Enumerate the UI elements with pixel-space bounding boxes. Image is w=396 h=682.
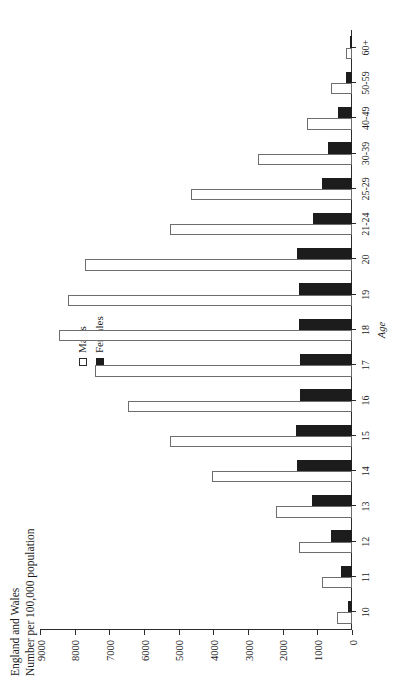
bar-males-13 [276,506,352,517]
category-tick [352,294,356,295]
bar-females-19 [299,283,352,294]
category-tick-label: 18 [360,325,371,335]
category-tick [352,258,356,259]
value-axis-line [40,629,352,630]
category-tick [352,611,356,612]
chart-title-block: England and Wales Number per 100,000 pop… [8,528,37,676]
chart-title-line1: England and Wales [8,528,23,676]
bar-males-10 [337,612,352,623]
bar-females-40-49 [338,107,352,118]
bar-males-16 [128,401,352,412]
category-tick-label: 19 [360,290,371,300]
category-tick-label: 17 [360,360,371,370]
category-tick-label: 25-29 [360,177,371,200]
value-tick-label: 9000 [35,640,46,661]
bar-males-14 [212,471,352,482]
category-tick [352,223,356,224]
category-tick [352,435,356,436]
category-tick-label: 16 [360,396,371,406]
value-tick: 0 [352,630,353,635]
value-tick: 7000 [109,630,110,635]
category-tick [352,153,356,154]
value-tick: 3000 [248,630,249,635]
value-tick-label: 1000 [312,640,323,661]
chart-figure: England and Wales Number per 100,000 pop… [0,0,396,682]
value-tick-label: 6000 [139,640,150,661]
category-tick [352,576,356,577]
value-tick-label: 4000 [208,640,219,661]
value-tick-label: 0 [347,640,358,645]
bar-females-16 [300,389,352,400]
category-tick [352,329,356,330]
value-tick-label: 7000 [104,640,115,661]
bar-males-19 [68,295,352,306]
category-tick-label: 14 [360,466,371,476]
value-tick: 4000 [213,630,214,635]
bar-males-15 [170,436,352,447]
value-tick: 9000 [40,630,41,635]
bar-males-30-39 [258,154,352,165]
category-tick-label: 12 [360,537,371,547]
category-tick-label: 10 [360,607,371,617]
value-tick-label: 2000 [278,640,289,661]
bar-males-40-49 [307,118,352,129]
bar-males-17 [95,365,352,376]
bar-males-60+ [346,48,352,59]
category-tick [352,400,356,401]
category-tick [352,47,356,48]
bar-males-11 [322,577,352,588]
chart-page: { "header": { "line1": "England and Wale… [0,0,396,682]
bar-females-18 [299,319,352,330]
category-tick-label: 40-49 [360,107,371,130]
value-tick-label: 8000 [70,640,81,661]
bar-females-25-29 [322,178,353,189]
plot-area: Age 010002000300040005000600070008000900… [40,30,352,630]
value-tick: 6000 [144,630,145,635]
value-tick: 8000 [75,630,76,635]
category-tick-label: 13 [360,501,371,511]
category-tick [352,505,356,506]
bar-males-12 [299,542,352,553]
value-tick: 1000 [317,630,318,635]
category-tick-label: 11 [360,572,371,582]
category-tick-label: 15 [360,431,371,441]
category-tick-label: 30-39 [360,142,371,165]
category-tick-label: 20 [360,254,371,264]
bar-males-18 [59,330,352,341]
bar-males-20 [85,259,352,270]
category-axis-title: Age [376,322,387,338]
category-tick [352,82,356,83]
bar-females-30-39 [328,142,352,153]
category-tick [352,188,356,189]
value-tick-label: 5000 [174,640,185,661]
bar-females-20 [297,248,352,259]
bar-females-10 [348,601,352,612]
bar-females-17 [300,354,352,365]
bar-females-50-59 [346,72,352,83]
bar-males-25-29 [191,189,352,200]
bar-males-21-24 [170,224,352,235]
bar-females-21-24 [313,213,352,224]
category-tick [352,117,356,118]
value-tick: 2000 [283,630,284,635]
category-tick [352,541,356,542]
category-tick-label: 50-59 [360,71,371,94]
category-tick [352,364,356,365]
category-tick-label: 60+ [360,40,371,56]
rotated-figure-wrapper: England and Wales Number per 100,000 pop… [0,0,396,682]
bar-females-11 [341,566,352,577]
bar-females-14 [297,460,352,471]
bar-females-60+ [350,36,352,47]
category-tick-label: 21-24 [360,212,371,235]
bar-females-12 [331,530,352,541]
value-tick: 5000 [179,630,180,635]
category-tick [352,470,356,471]
bar-males-50-59 [331,83,352,94]
value-tick-label: 3000 [243,640,254,661]
bar-females-15 [296,425,352,436]
bar-females-13 [312,495,352,506]
